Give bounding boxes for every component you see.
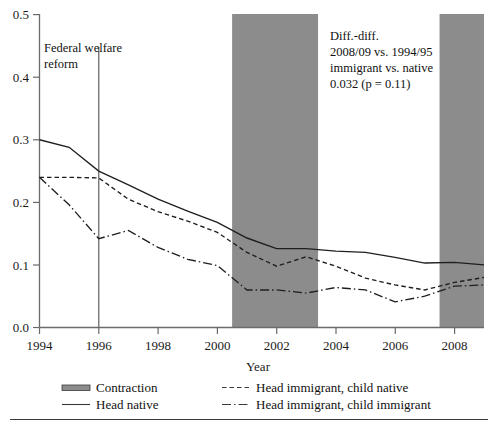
y-tick-label-4: 0.4 — [13, 70, 30, 85]
diff-diff-line-3: 0.032 (p = 0.11) — [330, 77, 411, 91]
figure-container: 0.0 0.1 0.2 0.3 0.4 0.5 1994 1996 1998 2… — [0, 0, 498, 424]
diff-diff-note: Diff.-diff. 2008/09 vs. 1994/95 immigran… — [330, 29, 434, 91]
x-tick-label-2006: 2006 — [382, 338, 409, 353]
x-tick-label-1994: 1994 — [27, 338, 54, 353]
legend-label-contraction: Contraction — [96, 380, 158, 395]
x-ticks — [40, 328, 455, 335]
x-axis-title: Year — [246, 359, 271, 374]
diff-diff-line-0: Diff.-diff. — [330, 29, 379, 43]
legend-label-head-immigrant-child-native: Head immigrant, child native — [256, 380, 409, 395]
line-chart: 0.0 0.1 0.2 0.3 0.4 0.5 1994 1996 1998 2… — [0, 0, 498, 424]
x-tick-label-1996: 1996 — [86, 338, 113, 353]
welfare-reform-note-line-0: Federal welfare — [44, 41, 123, 55]
welfare-reform-note-line-1: reform — [44, 57, 78, 71]
y-tick-label-2: 0.2 — [13, 195, 29, 210]
legend-label-head-native: Head native — [96, 397, 159, 412]
welfare-reform-note: Federal welfare reform — [44, 41, 123, 71]
y-tick-label-0: 0.0 — [13, 320, 29, 335]
y-tick-label-3: 0.3 — [13, 132, 29, 147]
legend-marker-contraction — [62, 385, 90, 391]
y-tick-label-1: 0.1 — [13, 258, 29, 273]
legend-label-head-immigrant-child-immigrant: Head immigrant, child immigrant — [256, 397, 431, 412]
y-tick-labels: 0.0 0.1 0.2 0.3 0.4 0.5 — [13, 7, 30, 335]
contraction-band-1 — [232, 14, 318, 327]
diff-diff-line-1: 2008/09 vs. 1994/95 — [330, 45, 432, 59]
x-tick-labels: 1994 1996 1998 2000 2002 2004 2006 2008 — [27, 338, 468, 353]
contraction-band-2 — [440, 14, 484, 327]
x-tick-label-2000: 2000 — [204, 338, 230, 353]
y-ticks — [33, 15, 40, 328]
legend: Contraction Head native Head immigrant, … — [62, 380, 431, 412]
x-tick-label-2004: 2004 — [323, 338, 350, 353]
x-tick-label-2008: 2008 — [442, 338, 468, 353]
y-tick-label-5: 0.5 — [13, 7, 29, 22]
x-tick-label-2002: 2002 — [264, 338, 290, 353]
x-tick-label-1998: 1998 — [145, 338, 171, 353]
diff-diff-line-2: immigrant vs. native — [330, 61, 434, 75]
